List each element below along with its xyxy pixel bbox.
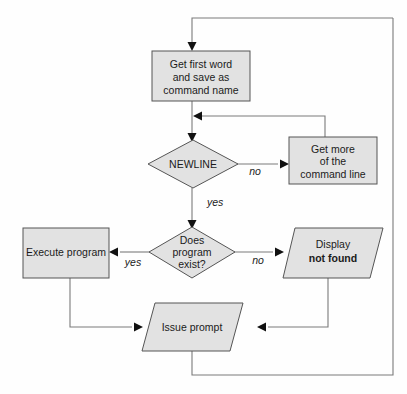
edge-label-exists-yes: yes [124,256,142,268]
connector-firstbox-to-newline [188,101,197,142]
connector-newline-no [237,160,289,169]
node-issue-prompt: Issue prompt [142,303,243,351]
flowchart-diagram: Get first word and save as command name … [0,0,407,394]
connector-newline-yes [188,188,197,229]
program-exists-line2: program [172,246,211,258]
node-newline-decision: NEWLINE [148,140,238,188]
program-exists-line3: exist? [178,258,206,270]
connector-getmore-return [193,112,325,138]
program-exists-line1: Does [180,234,205,246]
get-first-word-line2: and save as [173,71,230,83]
newline-decision-label: NEWLINE [169,158,217,170]
connector-execute-to-prompt [70,278,143,332]
get-more-line3: command line [300,168,366,180]
edge-label-newline-yes: yes [206,196,224,208]
edge-label-newline-no: no [249,165,261,177]
flowchart-canvas: Get first word and save as command name … [0,0,407,394]
node-display-not-found: Display not found [283,228,383,278]
display-not-found-line1: Display [316,238,351,250]
get-first-word-line1: Get first word [170,58,233,70]
issue-prompt-label: Issue prompt [162,321,223,333]
node-get-first-word: Get first word and save as command name [152,51,250,101]
get-first-word-line3: command name [163,84,238,96]
execute-program-label: Execute program [26,246,106,258]
get-more-line1: Get more [311,143,355,155]
connector-notfound-to-prompt [257,278,328,332]
get-more-line2: of the [320,155,346,167]
display-not-found-line2: not found [309,252,357,264]
edge-label-exists-no: no [252,254,264,266]
node-program-exists-decision: Does program exist? [149,227,235,278]
node-get-more: Get more of the command line [289,137,377,184]
connector-loop-top [188,18,394,51]
node-execute-program: Execute program [23,228,109,278]
